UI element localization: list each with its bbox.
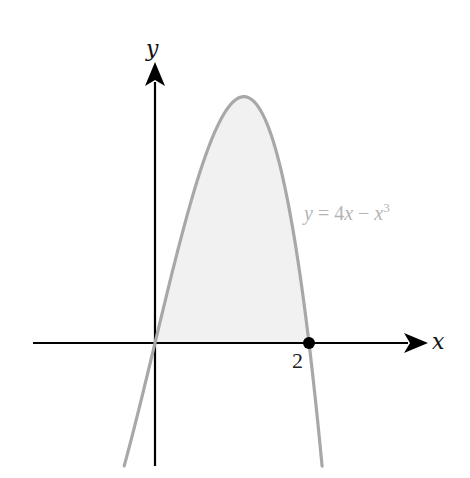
- tick-label-2: 2: [292, 348, 303, 373]
- curve-label-exp: 3: [383, 200, 390, 215]
- curve-label-x1: x: [343, 202, 353, 224]
- function-graph: y x 2 y = 4x − x3: [0, 0, 470, 478]
- curve-equation-label: y = 4x − x3: [302, 200, 390, 225]
- curve-label-y: y: [302, 202, 313, 225]
- curve-label-x2: x: [373, 202, 383, 224]
- curve-label-eq: = 4: [313, 202, 344, 224]
- curve-label-minus: −: [353, 202, 374, 224]
- x-axis-label: x: [432, 329, 445, 354]
- root-point-x2: [303, 337, 315, 349]
- y-axis-label: y: [145, 36, 159, 61]
- shaded-region: [155, 97, 309, 343]
